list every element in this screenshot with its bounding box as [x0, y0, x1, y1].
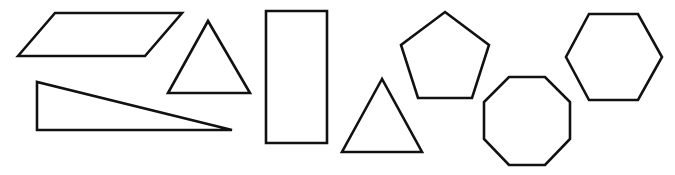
- shapes-canvas: [0, 0, 675, 175]
- parallelogram-shape: [18, 13, 182, 56]
- lower-triangle-shape: [342, 79, 422, 152]
- hexagon-shape: [566, 14, 662, 100]
- rectangle-shape: [266, 11, 327, 143]
- octagon-shape: [484, 77, 570, 165]
- small-triangle-shape: [168, 21, 250, 93]
- pentagon-shape: [401, 12, 489, 98]
